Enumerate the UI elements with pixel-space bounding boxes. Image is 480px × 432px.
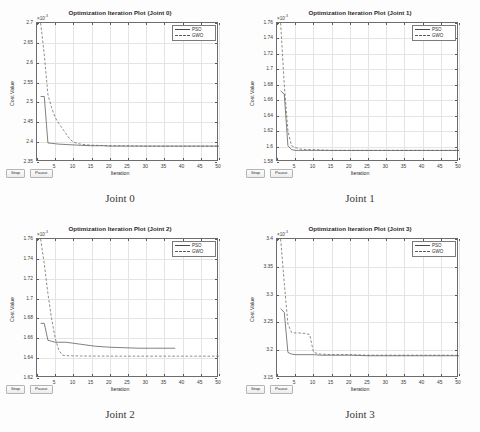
- x-tick-label: 5: [53, 164, 56, 169]
- y-tick-label: 2.65: [12, 39, 33, 44]
- x-tick-label: 20: [106, 164, 111, 169]
- figure-panel-joint-0: Optimization Iteration Plot (Joint 0)×10…: [0, 0, 240, 216]
- x-tick-label: 25: [364, 164, 369, 169]
- exponent-base: ×10: [277, 16, 285, 21]
- series-line-pso: [281, 309, 459, 356]
- stop-button[interactable]: Stop: [246, 385, 265, 394]
- figure-toolbar: StopPause: [246, 385, 293, 394]
- y-tick-label: 1.74: [252, 35, 273, 40]
- series-line-gwo: [281, 23, 459, 150]
- x-tick-label: 15: [88, 164, 93, 169]
- chart-legend: PSOGWO: [172, 25, 216, 41]
- stop-button[interactable]: Stop: [246, 169, 265, 178]
- gridline-vertical: [459, 23, 460, 160]
- x-tick-label: 50: [455, 380, 460, 385]
- figure-panel-joint-2: Optimization Iteration Plot (Joint 2)×10…: [0, 216, 240, 432]
- x-tick-label: 50: [215, 380, 220, 385]
- y-tick-label: 2.5: [12, 99, 33, 104]
- legend-swatch-dashed: [415, 251, 430, 252]
- x-tick-label: 40: [419, 380, 424, 385]
- series-line-pso: [41, 323, 176, 348]
- legend-item-pso: PSO: [175, 244, 213, 249]
- y-axis-title: Cost Value: [9, 297, 15, 322]
- figure-caption: Joint 1: [240, 192, 480, 204]
- plot-area-joint-1: [276, 22, 458, 161]
- y-axis-exponent: ×10-3: [277, 230, 288, 237]
- y-tick-label: 1.72: [252, 50, 273, 55]
- pause-button[interactable]: Pause: [270, 385, 292, 394]
- y-tick-label: 1.68: [252, 81, 273, 86]
- legend-label: PSO: [432, 28, 442, 33]
- x-tick-label: 45: [437, 164, 442, 169]
- y-axis-title: Cost Value: [249, 81, 255, 106]
- stop-button[interactable]: Stop: [6, 169, 25, 178]
- y-tick-label: 1.64: [12, 355, 33, 360]
- figure-toolbar: StopPause: [6, 385, 53, 394]
- y-tick-label: 3.35: [252, 263, 273, 268]
- x-tick-label: 50: [215, 164, 220, 169]
- legend-swatch-solid: [415, 29, 430, 30]
- y-tick-right: [215, 162, 217, 163]
- pause-button[interactable]: Pause: [30, 385, 52, 394]
- legend-label: GWO: [192, 34, 203, 39]
- y-tick-label: 3.3: [252, 291, 273, 296]
- y-tick: [37, 162, 39, 163]
- x-tick-label: 10: [310, 380, 315, 385]
- x-tick-label: 35: [161, 164, 166, 169]
- x-tick-label: 45: [437, 380, 442, 385]
- y-tick-label: 2.45: [12, 119, 33, 124]
- y-tick-right: [455, 162, 457, 163]
- exponent-base: ×10: [37, 232, 45, 237]
- y-axis-title: Cost Value: [9, 81, 15, 106]
- y-tick-label: 1.76: [12, 236, 33, 241]
- x-tick-label: 45: [197, 380, 202, 385]
- y-tick-label: 1.64: [252, 112, 273, 117]
- x-tick-label: 30: [142, 164, 147, 169]
- x-tick-label: 30: [142, 380, 147, 385]
- x-tick-label: 5: [293, 380, 296, 385]
- y-tick-label: 2.35: [12, 159, 33, 164]
- plot-area-joint-0: [36, 22, 218, 161]
- x-tick-label: 40: [179, 164, 184, 169]
- legend-label: GWO: [432, 250, 443, 255]
- y-tick-label: 1.58: [252, 159, 273, 164]
- y-tick-label: 1.66: [252, 97, 273, 102]
- x-tick-label: 15: [328, 164, 333, 169]
- chart-title: Optimization Iteration Plot (Joint 3): [240, 225, 480, 232]
- y-tick-label: 1.7: [252, 66, 273, 71]
- figure-panel-joint-3: Optimization Iteration Plot (Joint 3)×10…: [240, 216, 480, 432]
- x-tick-label: 40: [419, 164, 424, 169]
- series-line-pso: [281, 91, 459, 150]
- x-tick-label: 45: [197, 164, 202, 169]
- y-tick-label: 2.6: [12, 59, 33, 64]
- stop-button[interactable]: Stop: [6, 385, 25, 394]
- plot-area-joint-2: [36, 238, 218, 377]
- pause-button[interactable]: Pause: [30, 169, 52, 178]
- figure-caption: Joint 3: [240, 408, 480, 420]
- legend-swatch-solid: [175, 245, 190, 246]
- pause-button[interactable]: Pause: [270, 169, 292, 178]
- legend-label: PSO: [192, 28, 202, 33]
- x-tick-top: [459, 239, 460, 241]
- x-tick-label: 10: [70, 380, 75, 385]
- plot-area-joint-3: [276, 238, 458, 377]
- x-tick-label: 50: [455, 164, 460, 169]
- x-tick-label: 20: [106, 380, 111, 385]
- chart-title: Optimization Iteration Plot (Joint 0): [0, 9, 240, 16]
- x-tick-label: 15: [88, 380, 93, 385]
- legend-item-pso: PSO: [175, 28, 213, 33]
- x-tick: [219, 374, 220, 376]
- legend-swatch-solid: [415, 245, 430, 246]
- legend-item-gwo: GWO: [415, 250, 453, 255]
- x-tick-label: 20: [346, 164, 351, 169]
- chart-legend: PSOGWO: [172, 241, 216, 257]
- legend-item-gwo: GWO: [175, 250, 213, 255]
- y-tick-label: 1.74: [12, 255, 33, 260]
- y-axis-exponent: ×10-3: [277, 14, 288, 21]
- gridline-vertical: [219, 23, 220, 160]
- y-tick-label: 1.7: [12, 295, 33, 300]
- y-tick-label: 1.72: [12, 275, 33, 280]
- y-tick: [277, 378, 279, 379]
- legend-swatch-solid: [175, 29, 190, 30]
- chart-legend: PSOGWO: [412, 25, 456, 41]
